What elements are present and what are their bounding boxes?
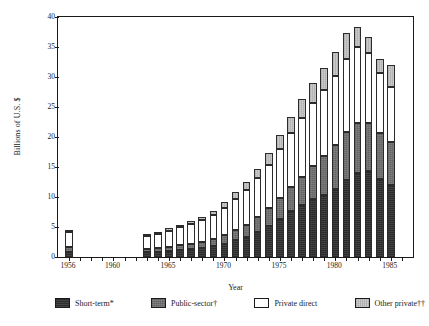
bar-segment-1967-3 <box>187 221 195 224</box>
legend-item-0[interactable]: Short-term* <box>55 298 114 308</box>
bar-1980 <box>332 52 340 257</box>
bar-1979 <box>320 68 328 257</box>
x-axis-tick-mark <box>380 257 381 261</box>
x-axis-tick-mark <box>91 257 92 261</box>
bar-1965 <box>165 228 173 257</box>
bar-segment-1981-2 <box>343 59 351 132</box>
legend-item-3[interactable]: Other private†† <box>355 298 425 308</box>
bar-segment-1982-0 <box>354 173 362 257</box>
bar-segment-1975-1 <box>276 198 284 218</box>
bar-1984 <box>376 59 384 257</box>
y-axis-tick-mark <box>55 257 59 258</box>
y-axis-tick-label: 0 <box>37 253 55 261</box>
bar-1981 <box>343 33 351 257</box>
bar-segment-1983-2 <box>365 53 373 123</box>
x-axis-tick-label: 1960 <box>92 262 132 270</box>
bar-segment-1976-1 <box>287 187 295 211</box>
bar-segment-1981-3 <box>343 33 351 59</box>
bar-segment-1968-1 <box>198 242 206 248</box>
bar-segment-1974-0 <box>265 226 273 257</box>
bar-segment-1985-3 <box>387 65 395 87</box>
y-axis-tick-mark <box>55 107 59 108</box>
bar-segment-1965-1 <box>165 247 173 251</box>
bar-segment-1978-0 <box>309 199 317 257</box>
y-axis-tick-label: 30 <box>37 73 55 81</box>
y-axis-tick-mark <box>55 197 59 198</box>
bar-1967 <box>187 221 195 257</box>
legend-item-1[interactable]: Public-sector† <box>151 298 217 308</box>
legend-item-2[interactable]: Private direct <box>254 298 317 308</box>
bar-segment-1974-3 <box>265 153 273 164</box>
legend-swatch-icon <box>355 298 370 308</box>
x-axis-tick-mark <box>236 257 237 261</box>
bar-segment-1973-3 <box>254 169 262 179</box>
bar-segment-1978-2 <box>309 103 317 165</box>
y-axis-tick-mark <box>55 77 59 78</box>
bar-segment-1956-1 <box>65 247 73 251</box>
x-axis-tick-label: 1956 <box>48 262 88 270</box>
x-axis-tick-mark <box>180 257 181 261</box>
y-axis-tick-mark <box>55 227 59 228</box>
y-axis-tick-label: 15 <box>37 163 55 171</box>
bar-segment-1963-3 <box>143 234 151 236</box>
bar-segment-1979-0 <box>320 195 328 257</box>
bar-segment-1977-3 <box>298 99 306 118</box>
x-axis-tick-mark <box>369 257 370 261</box>
y-axis-title: Billions of U.S. $ <box>13 72 22 182</box>
bar-segment-1974-2 <box>265 165 273 209</box>
bar-1982 <box>354 27 362 257</box>
bar-segment-1964-2 <box>154 234 162 248</box>
x-axis-tick-mark <box>346 257 347 261</box>
bar-segment-1970-2 <box>221 208 229 236</box>
bar-1966 <box>176 225 184 257</box>
legend-swatch-icon <box>55 298 70 308</box>
y-axis-tick-label: 20 <box>37 133 55 141</box>
legend-label: Private direct <box>274 299 317 308</box>
x-axis-tick-label: 1980 <box>314 262 354 270</box>
x-axis-tick-mark <box>136 257 137 261</box>
legend-swatch-icon <box>151 298 166 308</box>
bar-segment-1984-1 <box>376 133 384 179</box>
bar-segment-1985-2 <box>387 87 395 142</box>
bar-segment-1956-3 <box>65 230 73 232</box>
bar-segment-1967-2 <box>187 224 195 244</box>
y-axis-tick-label: 25 <box>37 103 55 111</box>
bar-segment-1970-3 <box>221 202 229 207</box>
y-axis-tick-mark <box>55 17 59 18</box>
bar-1976 <box>287 117 295 257</box>
bar-segment-1972-0 <box>243 237 251 257</box>
bar-segment-1985-1 <box>387 142 395 185</box>
bar-1973 <box>254 169 262 257</box>
y-axis-tick-mark <box>55 137 59 138</box>
bar-segment-1983-1 <box>365 123 373 171</box>
bar-1964 <box>154 232 162 257</box>
bar-segment-1969-0 <box>210 246 218 257</box>
x-axis-tick-mark <box>402 257 403 261</box>
x-axis-tick-mark <box>158 257 159 261</box>
bar-segment-1983-0 <box>365 171 373 257</box>
bar-segment-1983-3 <box>365 37 373 53</box>
bar-segment-1982-2 <box>354 47 362 123</box>
bar-segment-1966-3 <box>176 225 184 227</box>
bar-segment-1975-0 <box>276 219 284 257</box>
x-axis-tick-mark <box>80 257 81 261</box>
bar-segment-1968-3 <box>198 217 206 221</box>
chart-container: Billions of U.S. $ 0510152025303540 Year… <box>0 0 429 326</box>
x-axis-tick-label: 1965 <box>148 262 188 270</box>
bar-1969 <box>210 211 218 257</box>
bar-segment-1970-0 <box>221 244 229 257</box>
bar-segment-1963-2 <box>143 236 151 249</box>
bar-segment-1980-2 <box>332 76 340 146</box>
bar-segment-1974-1 <box>265 208 273 225</box>
bar-segment-1980-0 <box>332 189 340 257</box>
bar-segment-1956-2 <box>65 232 73 248</box>
bar-segment-1971-2 <box>232 199 240 230</box>
bar-segment-1969-1 <box>210 239 218 246</box>
x-axis-tick-mark <box>324 257 325 261</box>
bar-segment-1973-2 <box>254 178 262 217</box>
bar-1963 <box>143 234 151 257</box>
bar-segment-1967-0 <box>187 249 195 257</box>
legend-label: Public-sector† <box>171 299 217 308</box>
y-axis-tick-label: 35 <box>37 43 55 51</box>
bar-segment-1978-3 <box>309 83 317 103</box>
